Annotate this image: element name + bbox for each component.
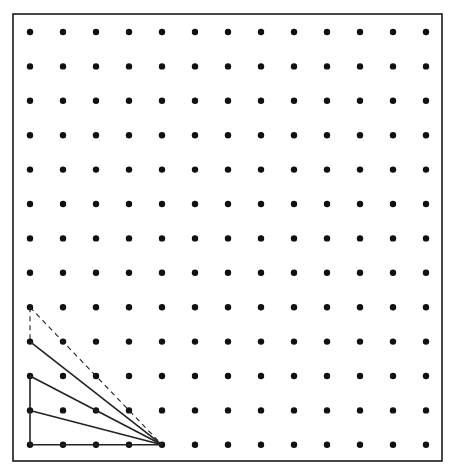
grid-dot: [60, 132, 66, 138]
grid-dot: [324, 166, 330, 172]
grid-dot: [192, 338, 198, 344]
grid-dot: [291, 304, 297, 310]
grid-dot: [126, 201, 132, 207]
grid-dot: [390, 338, 396, 344]
grid-dot: [60, 235, 66, 241]
grid-dot: [357, 166, 363, 172]
grid-dot: [93, 166, 99, 172]
grid-dot: [159, 201, 165, 207]
grid-dot: [225, 270, 231, 276]
grid-dot: [390, 373, 396, 379]
grid-dot: [423, 98, 429, 104]
grid-dot: [258, 63, 264, 69]
grid-dot: [390, 166, 396, 172]
grid-dot: [291, 201, 297, 207]
grid-dot: [357, 270, 363, 276]
grid-dot: [324, 235, 330, 241]
grid-dot: [357, 338, 363, 344]
grid-dot: [159, 373, 165, 379]
grid-dot: [324, 63, 330, 69]
grid-dot: [93, 132, 99, 138]
grid-dot: [258, 442, 264, 448]
grid-dot: [192, 442, 198, 448]
grid-dot: [324, 442, 330, 448]
grid-dot: [93, 338, 99, 344]
grid-dot: [225, 235, 231, 241]
grid-dot: [60, 29, 66, 35]
grid-dot: [60, 98, 66, 104]
grid-dot: [93, 29, 99, 35]
grid-dot: [126, 132, 132, 138]
grid-dot: [159, 407, 165, 413]
grid-dot: [126, 166, 132, 172]
grid-dot: [258, 304, 264, 310]
grid-dot: [93, 201, 99, 207]
grid-dot: [126, 270, 132, 276]
grid-dot: [390, 98, 396, 104]
grid-dot: [159, 29, 165, 35]
grid-dot: [423, 29, 429, 35]
grid-dot: [291, 235, 297, 241]
solid-segment: [30, 376, 162, 445]
grid-dot: [60, 63, 66, 69]
grid-dot: [423, 442, 429, 448]
grid-dot: [258, 235, 264, 241]
grid-dot: [423, 166, 429, 172]
grid-dot: [423, 373, 429, 379]
grid-dot: [126, 29, 132, 35]
grid-dot: [258, 132, 264, 138]
grid-dot: [126, 63, 132, 69]
grid-dot: [390, 29, 396, 35]
grid-dot: [159, 63, 165, 69]
grid-dot: [93, 304, 99, 310]
grid-dot: [60, 407, 66, 413]
grid-dot: [357, 98, 363, 104]
grid-dot: [357, 63, 363, 69]
grid-dot: [126, 98, 132, 104]
grid-dot: [291, 132, 297, 138]
grid-dot: [225, 338, 231, 344]
grid-dot: [93, 235, 99, 241]
grid-dot: [423, 235, 429, 241]
grid-dot: [291, 63, 297, 69]
grid-dot: [357, 373, 363, 379]
solid-segment: [30, 410, 162, 444]
grid-dot: [27, 29, 33, 35]
grid-dot: [27, 132, 33, 138]
grid-dot: [192, 29, 198, 35]
grid-dot: [192, 304, 198, 310]
grid-dot: [258, 338, 264, 344]
grid-dot: [27, 235, 33, 241]
grid-dot: [192, 407, 198, 413]
grid-dot: [192, 373, 198, 379]
grid-dot: [390, 201, 396, 207]
grid-dot: [324, 132, 330, 138]
grid-dot: [324, 407, 330, 413]
grid-dot: [390, 304, 396, 310]
grid-dot: [192, 201, 198, 207]
grid-dot: [357, 304, 363, 310]
grid-dot: [225, 98, 231, 104]
grid-dot: [192, 132, 198, 138]
grid-dot: [291, 407, 297, 413]
geoboard-diagram: [0, 0, 454, 470]
grid-dot: [93, 270, 99, 276]
grid-dot: [423, 338, 429, 344]
grid-dot: [423, 270, 429, 276]
grid-dot: [60, 304, 66, 310]
grid-dot: [225, 29, 231, 35]
grid-dot: [423, 63, 429, 69]
grid-dot: [291, 338, 297, 344]
grid-dot: [192, 63, 198, 69]
grid-dot: [60, 201, 66, 207]
grid-dot: [159, 166, 165, 172]
grid-dot: [258, 407, 264, 413]
grid-dot: [357, 407, 363, 413]
grid-dot: [291, 442, 297, 448]
grid-dot: [357, 29, 363, 35]
grid-dot: [390, 442, 396, 448]
grid-dot: [423, 201, 429, 207]
grid-dot: [423, 407, 429, 413]
grid-dot: [324, 201, 330, 207]
grid-dot: [225, 166, 231, 172]
